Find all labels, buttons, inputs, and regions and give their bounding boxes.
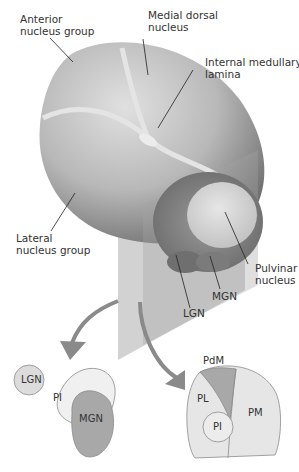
arrow-to-left-section	[60, 301, 118, 360]
right-section-pdm: PdM	[203, 355, 224, 367]
label-mgn: MGN	[212, 290, 237, 302]
right-section-pm: PM	[248, 407, 263, 419]
left-section-pi: PI	[53, 392, 62, 404]
left-section-lgn: LGN	[21, 374, 42, 386]
label-pulvinar-nucleus: Pulvinar nucleus	[255, 262, 297, 286]
right-section-pi: PI	[213, 421, 222, 433]
label-internal-medullary-lamina: Internal medullary lamina	[205, 56, 299, 80]
right-section-drawing	[187, 366, 281, 458]
label-medial-dorsal-nucleus: Medial dorsal nucleus	[148, 9, 218, 33]
right-section-pl: PL	[197, 393, 209, 405]
label-lgn: LGN	[183, 307, 205, 319]
left-section-mgn: MGN	[79, 413, 103, 425]
pulvinar-surface	[187, 182, 257, 248]
label-lateral-nucleus-group: Lateral nucleus group	[16, 232, 90, 256]
label-anterior-nucleus-group: Anterior nucleus group	[20, 13, 94, 37]
